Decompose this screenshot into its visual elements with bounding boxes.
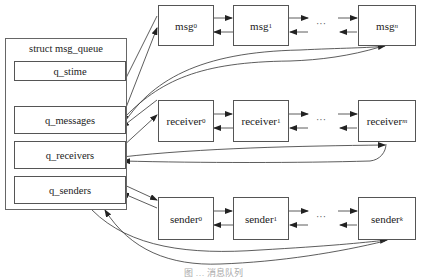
- field-q-senders: q_senders: [14, 176, 126, 204]
- node-label: sender: [170, 213, 199, 225]
- field-q-messages: q_messages: [14, 106, 126, 134]
- node-msg-n: msgn: [358, 5, 416, 46]
- node-subscript: 1: [268, 22, 272, 30]
- row-ellipsis: ···: [316, 211, 326, 222]
- node-subscript: k: [400, 215, 403, 223]
- struct-msg-queue-box: struct msg_queue q_stime ⋮ q_messages q_…: [5, 38, 127, 210]
- node-sender-1: sender1: [233, 197, 289, 240]
- node-subscript: 1: [277, 117, 281, 125]
- struct-title: struct msg_queue: [6, 43, 126, 54]
- node-msg-1: msg1: [233, 5, 289, 46]
- node-label: receiver: [242, 115, 277, 127]
- node-receiver-m: receiverm: [358, 100, 416, 142]
- node-label: sender: [245, 213, 274, 225]
- node-label: receiver: [167, 115, 202, 127]
- node-label: msg: [376, 20, 394, 32]
- node-label: receiver: [367, 115, 402, 127]
- node-subscript: 0: [193, 22, 197, 30]
- node-label: sender: [371, 213, 400, 225]
- node-label: msg: [175, 20, 193, 32]
- node-receiver-1: receiver1: [233, 100, 289, 142]
- node-subscript: 0: [202, 117, 206, 125]
- node-sender-0: sender0: [158, 197, 214, 240]
- node-subscript: 0: [199, 215, 203, 223]
- row-ellipsis: ···: [316, 114, 326, 125]
- row-ellipsis: ···: [316, 18, 326, 29]
- node-label: msg: [250, 20, 268, 32]
- field-q-stime: q_stime: [14, 61, 126, 81]
- node-sender-k: senderk: [358, 197, 416, 240]
- node-receiver-0: receiver0: [158, 100, 214, 142]
- node-msg-0: msg0: [158, 5, 214, 46]
- node-subscript: n: [394, 22, 398, 30]
- figure-caption: 图 … 消息队列: [0, 266, 427, 278]
- node-subscript: 1: [274, 215, 278, 223]
- node-subscript: m: [402, 117, 407, 125]
- field-q-receivers: q_receivers: [14, 141, 126, 169]
